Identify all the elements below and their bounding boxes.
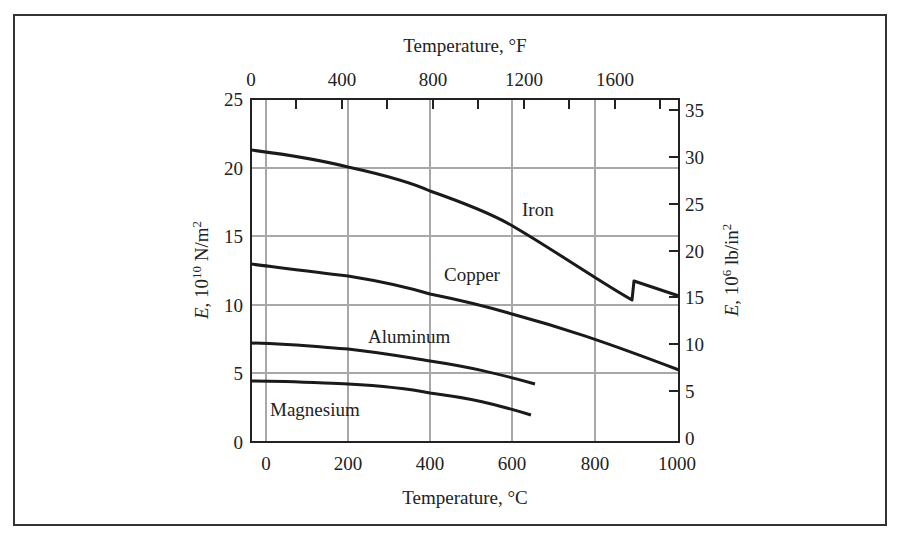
top-axis-title: Temperature, °F [403,35,526,56]
svg-text:800: 800 [419,69,448,90]
label-aluminum: Aluminum [368,326,451,347]
svg-text:800: 800 [581,453,610,474]
svg-text:25: 25 [224,89,243,110]
svg-text:10: 10 [685,334,704,355]
bottom-axis-title: Temperature, °C [402,487,528,508]
label-magnesium: Magnesium [270,399,360,420]
svg-text:1200: 1200 [505,69,543,90]
svg-text:400: 400 [416,453,445,474]
svg-text:400: 400 [328,69,357,90]
svg-text:5: 5 [685,381,695,402]
svg-text:5: 5 [234,363,244,384]
svg-text:20: 20 [224,158,243,179]
svg-text:0: 0 [261,453,271,474]
svg-text:0: 0 [234,432,244,453]
svg-text:25: 25 [685,194,704,215]
right-ticks [669,110,679,391]
svg-text:0: 0 [246,69,256,90]
svg-text:15: 15 [685,287,704,308]
label-iron: Iron [522,199,554,220]
svg-text:200: 200 [334,453,363,474]
svg-text:0: 0 [685,428,695,449]
top-ticks [296,99,660,109]
svg-text:30: 30 [685,147,704,168]
svg-text:600: 600 [498,453,527,474]
svg-text:10: 10 [224,295,243,316]
curve-aluminum [251,343,535,384]
svg-text:35: 35 [685,100,704,121]
label-copper: Copper [444,264,501,285]
svg-text:20: 20 [685,241,704,262]
svg-text:1600: 1600 [596,69,634,90]
left-axis-title: E, 1010 N/m2 [189,221,212,320]
svg-text:15: 15 [224,226,243,247]
y-tick-labels: 0 5 10 15 20 25 [224,89,243,453]
svg-text:1000: 1000 [658,453,696,474]
x2-tick-labels: 0 400 800 1200 1600 [246,69,634,90]
y2-tick-labels: 0 5 10 15 20 25 30 35 [685,100,704,449]
chart: Iron Copper Aluminum Magnesium 0 200 400… [0,0,912,542]
right-axis-title: E, 106 lb/in2 [719,224,742,318]
x-tick-labels: 0 200 400 600 800 1000 [261,453,696,474]
